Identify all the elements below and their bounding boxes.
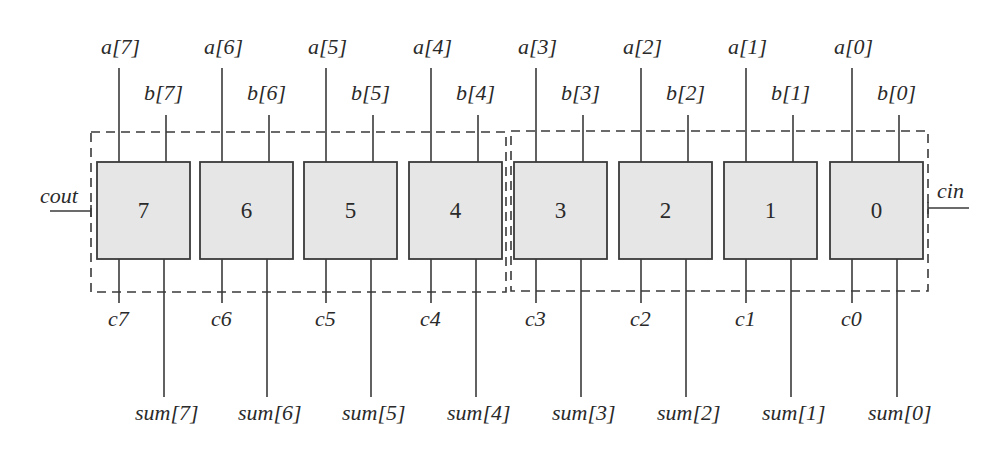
sum-output-label: sum[2]	[657, 400, 721, 425]
carry-label: c0	[841, 306, 862, 331]
ripple-carry-adder-diagram: cout cin a[7]b[7]7c7sum[7]a[6]b[6]6c6sum…	[0, 0, 1004, 459]
a-input-label: a[3]	[518, 34, 557, 59]
carry-label: c3	[525, 306, 546, 331]
a-input-label: a[6]	[204, 34, 243, 59]
sum-output-label: sum[5]	[342, 400, 406, 425]
block-number: 1	[765, 198, 777, 223]
block-number: 0	[871, 198, 883, 223]
sum-output-label: sum[3]	[552, 400, 616, 425]
adder-blocks: a[7]b[7]7c7sum[7]a[6]b[6]6c6sum[6]a[5]b[…	[97, 34, 932, 425]
block-number: 5	[345, 198, 357, 223]
carry-label: c6	[211, 306, 232, 331]
b-input-label: b[3]	[561, 80, 600, 105]
block-number: 7	[138, 198, 150, 223]
adder-block-3: a[3]b[3]3c3sum[3]	[514, 34, 616, 425]
block-number: 2	[660, 198, 672, 223]
sum-output-label: sum[7]	[135, 400, 199, 425]
block-number: 4	[450, 198, 462, 223]
adder-block-6: a[6]b[6]6c6sum[6]	[200, 34, 302, 425]
a-input-label: a[7]	[101, 34, 140, 59]
sum-output-label: sum[0]	[868, 400, 932, 425]
b-input-label: b[2]	[666, 80, 705, 105]
adder-block-5: a[5]b[5]5c5sum[5]	[304, 34, 406, 425]
b-input-label: b[0]	[877, 80, 916, 105]
a-input-label: a[2]	[623, 34, 662, 59]
carry-label: c2	[630, 306, 651, 331]
sum-output-label: sum[4]	[447, 400, 511, 425]
carry-label: c4	[420, 306, 441, 331]
b-input-label: b[4]	[456, 80, 495, 105]
carry-label: c1	[735, 306, 756, 331]
b-input-label: b[6]	[247, 80, 286, 105]
a-input-label: a[0]	[834, 34, 873, 59]
block-number: 6	[241, 198, 253, 223]
cout-label: cout	[40, 183, 79, 208]
sum-output-label: sum[1]	[762, 400, 826, 425]
adder-block-1: a[1]b[1]1c1sum[1]	[724, 34, 826, 425]
a-input-label: a[4]	[413, 34, 452, 59]
sum-output-label: sum[6]	[238, 400, 302, 425]
block-number: 3	[555, 198, 567, 223]
b-input-label: b[5]	[351, 80, 390, 105]
adder-block-4: a[4]b[4]4c4sum[4]	[409, 34, 511, 425]
adder-block-7: a[7]b[7]7c7sum[7]	[97, 34, 199, 425]
adder-block-0: a[0]b[0]0c0sum[0]	[830, 34, 932, 425]
a-input-label: a[1]	[728, 34, 767, 59]
cin-label: cin	[937, 178, 964, 203]
b-input-label: b[1]	[771, 80, 810, 105]
b-input-label: b[7]	[144, 80, 183, 105]
carry-label: c5	[315, 306, 336, 331]
a-input-label: a[5]	[308, 34, 347, 59]
carry-in: cin	[928, 178, 969, 214]
carry-out: cout	[40, 183, 91, 217]
adder-block-2: a[2]b[2]2c2sum[2]	[619, 34, 721, 425]
carry-label: c7	[108, 306, 130, 331]
